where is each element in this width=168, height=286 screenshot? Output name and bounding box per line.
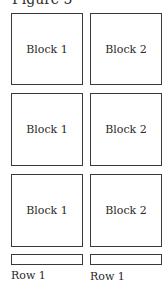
block-label: Block 1	[26, 204, 68, 217]
row-label-right: Row 1	[90, 271, 125, 283]
block-row3-col1: Block 1	[11, 174, 83, 247]
block-label: Block 1	[26, 43, 68, 56]
row-label-left: Row 1	[11, 270, 46, 282]
block-label: Block 2	[105, 123, 147, 136]
block-row1-col2: Block 2	[90, 13, 162, 85]
row-bar-left	[11, 254, 83, 265]
block-row1-col1: Block 1	[11, 13, 83, 85]
block-label: Block 1	[26, 123, 68, 136]
row-bar-right	[90, 254, 162, 265]
block-row2-col2: Block 2	[90, 93, 162, 166]
block-row3-col2: Block 2	[90, 174, 162, 247]
block-label: Block 2	[105, 204, 147, 217]
block-label: Block 2	[105, 43, 147, 56]
figure-title: Figure 5	[12, 0, 73, 7]
block-row2-col1: Block 1	[11, 93, 83, 166]
